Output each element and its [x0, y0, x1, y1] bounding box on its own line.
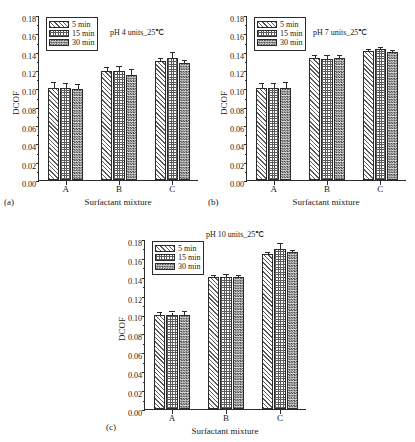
error-bar-cap — [75, 84, 80, 85]
bar — [208, 277, 219, 409]
bar — [72, 89, 83, 180]
y-tick-mark-minor — [143, 401, 145, 402]
y-tick-mark — [244, 16, 248, 17]
x-tick-label: A — [62, 185, 69, 194]
y-tick-mark — [36, 89, 40, 90]
y-tick-mark-minor — [245, 44, 247, 45]
y-axis-tick-label: 0.00 — [22, 181, 39, 189]
y-tick-text: 0.12 — [230, 71, 244, 79]
chart-panel-a: 0.000.020.040.060.080.100.120.140.160.18… — [0, 0, 207, 215]
bar — [256, 88, 267, 180]
y-tick-text: 0.16 — [230, 34, 244, 42]
x-tick-label: C — [377, 185, 383, 194]
legend-item-label: 30 min — [280, 39, 302, 47]
error-bar — [184, 61, 185, 62]
y-tick-text: 0.04 — [128, 372, 142, 380]
y-tick-mark-minor — [37, 80, 39, 81]
y-tick-text: 0.04 — [22, 144, 36, 152]
error-bar-cap — [283, 82, 288, 83]
bar — [101, 71, 112, 180]
x-axis-title: Surfactant mixture — [144, 427, 306, 436]
condition-annotation: pH 10 units_25℃ — [206, 231, 264, 239]
y-tick-mark-minor — [37, 99, 39, 100]
y-tick-mark — [142, 278, 146, 279]
error-bar-cap — [366, 49, 371, 50]
error-bar-cap — [277, 243, 282, 244]
legend-item: 5 min — [49, 21, 94, 29]
y-axis-tick-label: 0.04 — [230, 144, 247, 152]
bar — [126, 75, 137, 180]
condition-annotation: pH 4 units_25℃ — [110, 29, 164, 37]
error-bar-cap — [312, 55, 317, 56]
y-tick-mark-minor — [143, 306, 145, 307]
y-tick-text: 0.06 — [128, 353, 142, 361]
legend: 5 min15 min30 min — [152, 241, 204, 275]
legend-item: 30 min — [155, 263, 200, 271]
bar — [375, 49, 386, 180]
y-tick-mark-minor — [37, 117, 39, 118]
y-tick-text: 0.08 — [128, 334, 142, 342]
y-axis-tick-label: 0.16 — [22, 34, 39, 42]
y-tick-text: 0.02 — [22, 163, 36, 171]
y-tick-text: 0.18 — [230, 16, 244, 24]
error-bar — [184, 312, 185, 315]
diagonal-hatch-swatch — [49, 21, 69, 28]
error-bar — [286, 83, 287, 89]
error-bar — [54, 83, 55, 88]
error-bar — [262, 84, 263, 89]
error-bar — [268, 253, 269, 254]
x-axis-title: Surfactant mixture — [38, 198, 198, 207]
y-tick-mark-minor — [37, 172, 39, 173]
y-tick-mark — [36, 108, 40, 109]
y-axis-tick-label: 0.16 — [230, 34, 247, 42]
y-tick-text: 0.10 — [230, 89, 244, 97]
y-tick-text: 0.08 — [230, 108, 244, 116]
y-tick-mark — [142, 391, 146, 392]
error-bar-cap — [324, 55, 329, 56]
bar — [179, 315, 190, 409]
x-tick-label: A — [169, 414, 176, 423]
y-tick-mark-minor — [245, 154, 247, 155]
x-tick-label: A — [270, 185, 277, 194]
y-axis-tick-label: 0.04 — [22, 144, 39, 152]
error-bar — [339, 56, 340, 58]
y-tick-mark — [244, 89, 248, 90]
bar — [155, 61, 166, 180]
bar — [309, 58, 320, 180]
error-bar — [160, 313, 161, 315]
error-bar-cap — [211, 275, 216, 276]
legend-item: 30 min — [257, 39, 302, 47]
y-axis-tick-label: 0.10 — [128, 316, 145, 324]
y-tick-mark — [244, 144, 248, 145]
y-tick-text: 0.00 — [22, 181, 36, 189]
y-axis-tick-label: 0.08 — [22, 108, 39, 116]
y-tick-mark — [244, 34, 248, 35]
chart-panel-c: 0.000.020.040.060.080.100.120.140.160.18… — [103, 218, 315, 442]
legend-item-label: 15 min — [72, 30, 94, 38]
legend-item: 15 min — [257, 30, 302, 38]
error-bar-cap — [290, 250, 295, 251]
condition-annotation: pH 7 units_25℃ — [313, 29, 367, 37]
y-axis-tick-label: 0.02 — [230, 163, 247, 171]
bar — [167, 58, 178, 180]
error-bar-cap — [158, 58, 163, 59]
error-bar — [66, 84, 67, 89]
diagonal-hatch-swatch — [257, 21, 277, 28]
y-tick-mark-minor — [143, 363, 145, 364]
y-tick-text: 0.14 — [22, 53, 36, 61]
error-bar — [274, 84, 275, 88]
cross-hatch-grid-swatch — [155, 254, 175, 261]
legend-item-label: 15 min — [280, 30, 302, 38]
y-tick-text: 0.16 — [22, 34, 36, 42]
y-axis-tick-label: 0.16 — [128, 259, 145, 267]
bar — [321, 59, 332, 180]
y-axis-tick-label: 0.18 — [230, 16, 247, 24]
y-tick-mark — [36, 34, 40, 35]
y-tick-mark — [142, 240, 146, 241]
bar — [262, 254, 273, 409]
y-tick-mark-minor — [143, 382, 145, 383]
x-tick-label: C — [277, 414, 283, 423]
y-axis-tick-label: 0.00 — [128, 410, 145, 418]
y-axis-tick-label: 0.14 — [128, 278, 145, 286]
bar — [154, 315, 165, 409]
